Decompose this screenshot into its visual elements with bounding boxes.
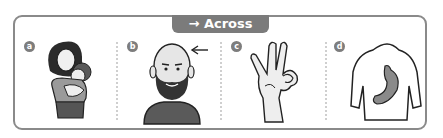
divider (325, 42, 327, 120)
arrow-right-icon: → (188, 16, 199, 31)
panel-badge-b: b (127, 41, 138, 52)
panel-badge-a: a (24, 41, 35, 52)
panel-badge-c: c (231, 41, 242, 52)
bald-bearded-man-illustration (140, 36, 218, 126)
mother-baby-illustration (38, 36, 108, 126)
arrow-left-icon (192, 46, 208, 54)
direction-label: Across (204, 16, 253, 31)
divider (220, 42, 222, 120)
direction-tab: → Across (172, 15, 269, 33)
ok-hand-illustration (245, 36, 315, 126)
divider (116, 42, 118, 120)
torso-stomach-illustration (343, 36, 425, 126)
